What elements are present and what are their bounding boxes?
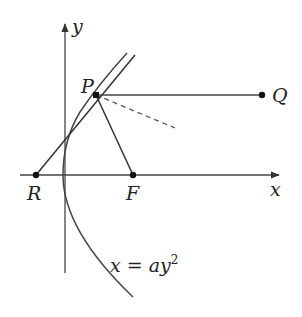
y-axis-label: y — [72, 17, 83, 36]
point-r-marker — [33, 172, 39, 178]
point-p-label: P — [81, 77, 94, 96]
point-q-label: Q — [272, 86, 288, 105]
equation-exponent: 2 — [171, 253, 179, 267]
parabola-diagram: y x P Q R F x = ay2 — [0, 0, 302, 317]
point-f-marker — [130, 172, 136, 178]
point-f-label: F — [126, 184, 139, 203]
point-q-marker — [259, 92, 265, 98]
tangent-line — [36, 55, 135, 175]
dashed-ray — [96, 95, 175, 128]
equation-text: x = ay — [110, 254, 171, 276]
x-axis-label: x — [270, 180, 281, 199]
curve-equation-label: x = ay2 — [110, 254, 178, 275]
point-r-label: R — [27, 184, 41, 203]
segment-pf — [96, 95, 133, 175]
